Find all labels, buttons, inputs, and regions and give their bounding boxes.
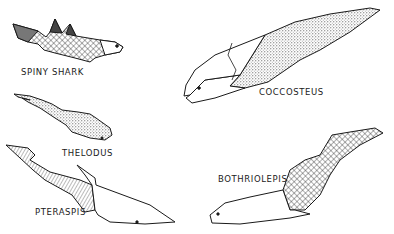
label-pteraspis: PTERASPIS <box>35 207 86 217</box>
fossil-fish-illustration: SPINY SHARK COCCOSTEUS THELODUS BOTHRIOL… <box>0 0 394 234</box>
label-thelodus: THELODUS <box>62 148 113 158</box>
label-spiny-shark: SPINY SHARK <box>21 67 84 77</box>
thelodus-drawing <box>14 94 112 140</box>
label-coccosteus: COCCOSTEUS <box>259 87 324 97</box>
label-bothriolepis: BOTHRIOLEPIS <box>218 174 287 184</box>
spiny-shark-drawing <box>13 19 123 62</box>
